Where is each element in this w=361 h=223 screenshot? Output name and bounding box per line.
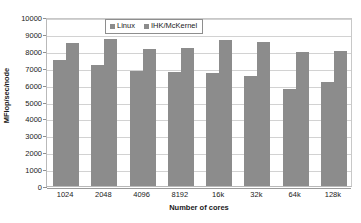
bar-linux bbox=[168, 72, 181, 186]
bar-linux bbox=[53, 60, 66, 186]
bar-ihk-mckernel bbox=[104, 39, 117, 186]
y-axis-tick-label: 1000 bbox=[25, 166, 42, 175]
bar-linux bbox=[91, 65, 104, 186]
x-axis-tick-label: 2048 bbox=[95, 190, 112, 199]
legend: LinuxIHK/McKernel bbox=[105, 19, 203, 34]
plot-area bbox=[46, 18, 352, 187]
legend-entry[interactable]: Linux bbox=[110, 21, 135, 31]
y-axis-title: MFlop/sec/node bbox=[0, 0, 14, 190]
bar-linux bbox=[130, 71, 143, 186]
x-axis-tick-label: 4096 bbox=[133, 190, 150, 199]
bar-linux bbox=[321, 82, 334, 186]
bar-ihk-mckernel bbox=[334, 51, 347, 186]
bar-ihk-mckernel bbox=[66, 43, 79, 186]
legend-label: IHK/McKernel bbox=[151, 21, 197, 31]
bar-group bbox=[238, 19, 276, 186]
x-axis-tick-label: 8192 bbox=[172, 190, 189, 199]
x-axis-tick-label: 32k bbox=[250, 190, 262, 199]
x-axis-tick-label: 16k bbox=[212, 190, 224, 199]
bar-ihk-mckernel bbox=[257, 42, 270, 186]
bar-ihk-mckernel bbox=[219, 40, 232, 186]
x-axis-tick-label: 128k bbox=[325, 190, 341, 199]
bar-linux bbox=[244, 76, 257, 186]
bars-layer bbox=[47, 19, 351, 186]
y-axis-tick-labels: 0100020003000400050006000700080009000100… bbox=[14, 18, 45, 187]
legend-swatch-icon bbox=[144, 24, 149, 29]
y-axis-tick-label: 4000 bbox=[25, 115, 42, 124]
bar-ihk-mckernel bbox=[181, 48, 194, 186]
bar-chart: MFlop/sec/node 0100020003000400050006000… bbox=[0, 0, 361, 223]
y-axis-tick-label: 5000 bbox=[25, 98, 42, 107]
bar-group bbox=[162, 19, 200, 186]
legend-entry[interactable]: IHK/McKernel bbox=[144, 21, 197, 31]
bar-group bbox=[47, 19, 85, 186]
bar-group bbox=[315, 19, 353, 186]
bar-ihk-mckernel bbox=[296, 52, 309, 186]
bar-linux bbox=[206, 73, 219, 186]
x-axis-title: Number of cores bbox=[46, 203, 352, 212]
bar-linux bbox=[283, 89, 296, 186]
legend-label: Linux bbox=[117, 21, 135, 31]
bar-group bbox=[200, 19, 238, 186]
y-axis-tick-label: 7000 bbox=[25, 64, 42, 73]
bar-ihk-mckernel bbox=[143, 49, 156, 186]
y-axis-tick-label: 8000 bbox=[25, 47, 42, 56]
x-axis-tick-label: 1024 bbox=[57, 190, 74, 199]
y-axis-tick-label: 9000 bbox=[25, 30, 42, 39]
bar-group bbox=[277, 19, 315, 186]
legend-swatch-icon bbox=[110, 24, 115, 29]
bar-group bbox=[124, 19, 162, 186]
bar-group bbox=[85, 19, 123, 186]
y-axis-tick-label: 2000 bbox=[25, 149, 42, 158]
y-axis-tick-label: 3000 bbox=[25, 132, 42, 141]
x-axis-tick-labels: 102420484096819216k32k64k128k bbox=[46, 189, 352, 202]
y-axis-tick-label: 10000 bbox=[21, 14, 42, 23]
x-axis-tick-label: 64k bbox=[289, 190, 301, 199]
y-axis-title-text: MFlop/sec/node bbox=[3, 67, 12, 122]
y-axis-tick-label: 6000 bbox=[25, 81, 42, 90]
